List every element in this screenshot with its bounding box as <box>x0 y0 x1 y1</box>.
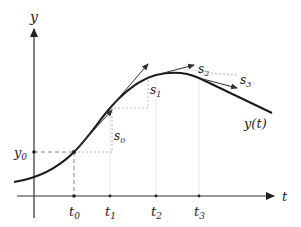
tangent-s1 <box>110 64 148 108</box>
t3-label: t3 <box>194 204 205 221</box>
y-axis-label: y <box>29 9 39 25</box>
t2-label: t2 <box>151 204 162 221</box>
t2-tick-point <box>155 195 158 198</box>
euler-method-diagram: y t y0 t0 t1 t2 t3 s0 s1 s2 s3 y(t) <box>0 0 301 227</box>
solution-curve <box>14 73 272 182</box>
t1-tick-point <box>109 195 112 198</box>
t-axis-label: t <box>282 189 288 204</box>
tangent-s0 <box>74 110 112 152</box>
t0-label: t0 <box>69 204 80 221</box>
curve-label: y(t) <box>243 116 267 131</box>
s0-label: s0 <box>114 129 125 145</box>
s3-label: s3 <box>240 73 251 89</box>
y0-axis-point <box>32 150 36 154</box>
s2-label: s2 <box>198 62 209 78</box>
s1-label: s1 <box>150 83 161 99</box>
y0-label: y0 <box>13 145 27 162</box>
t1-label: t1 <box>105 204 116 221</box>
t0-tick-point <box>72 194 76 198</box>
t3-tick-point <box>198 195 201 198</box>
start-point <box>72 150 76 154</box>
